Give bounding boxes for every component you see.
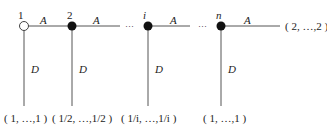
edge-label-a: A (40, 14, 47, 26)
ellipsis: ··· (125, 20, 134, 32)
node-2-label: 2 (67, 9, 73, 21)
edge-label-a: A (93, 14, 100, 26)
node-2 (68, 22, 77, 31)
node-i-label: i (143, 9, 146, 21)
edge-label-d: D (228, 63, 236, 75)
edge-label-a: A (170, 14, 177, 26)
node-1-label: 1 (18, 9, 24, 21)
node-n (217, 22, 226, 31)
bottom-label-1: ( 1, …,1 ) (4, 112, 47, 124)
edge-label-d: D (155, 63, 163, 75)
edge-label-d: D (79, 63, 87, 75)
edge-label-a: A (244, 14, 251, 26)
bottom-label-2: ( 1/2, …,1/2 ) (52, 112, 112, 124)
node-n-label: n (216, 9, 222, 21)
right-end-label: ( 2, …,2 ) (285, 20, 327, 32)
chain-diagram: 1 2 i n A A A A ··· ··· ( 2, …,2 ) D D D… (0, 0, 327, 135)
node-i (144, 22, 153, 31)
ellipsis: ··· (198, 20, 207, 32)
bottom-label-n: ( 1, …,1 ) (203, 112, 246, 124)
edge-label-d: D (31, 63, 39, 75)
bottom-label-i: ( 1/i, …,1/i ) (121, 112, 176, 124)
node-1 (20, 22, 29, 31)
